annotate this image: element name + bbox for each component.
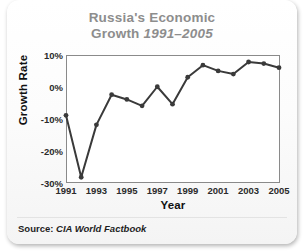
growth-rate-line-series [66,55,280,183]
data-point-marker [216,68,221,73]
x-axis-tick-label: 2005 [268,185,289,196]
chart-title-growth-word: Growth [91,26,139,41]
x-axis-tick-label: 1991 [55,185,76,196]
chart-title-line-2: Growth 1991–2005 [7,26,297,42]
data-point-marker [94,122,99,127]
data-point-marker [261,61,266,66]
data-point-marker [231,72,236,77]
data-point-marker [246,60,251,65]
chart-card: Russia's Economic Growth 1991–2005 Growt… [7,0,297,244]
x-axis-tick-label: 1995 [116,185,137,196]
chart-title-line-1: Russia's Economic [7,10,297,26]
x-axis-tick-label: 1997 [147,185,168,196]
plot-area [66,55,280,183]
data-point-marker [155,84,160,89]
y-axis-tick-label: -10% [29,114,63,125]
data-point-marker [201,63,206,68]
source-label: Source: [18,223,53,234]
y-axis-tick-label: -20% [29,146,63,157]
y-axis-tick-label: 0% [29,82,63,93]
source-note: Source: CIA World Factbook [18,223,146,234]
series-line [66,62,279,177]
screenshot-root: Russia's Economic Growth 1991–2005 Growt… [0,0,306,251]
x-axis-tick-label: 2003 [238,185,259,196]
chart-title-year-range: 1991–2005 [144,26,213,41]
data-point-marker [124,97,129,102]
x-axis-tick-label: 2001 [208,185,229,196]
x-axis-ticks: 19911993199519971999200120032005 [66,185,280,199]
source-value: CIA World Factbook [56,223,146,234]
data-point-marker [140,103,145,108]
chart-title: Russia's Economic Growth 1991–2005 [7,10,297,41]
data-point-marker [64,113,69,118]
data-point-marker [277,65,282,70]
x-axis-label: Year [66,199,280,211]
y-axis-ticks: 10% 0% -10% -20% -30% [25,55,63,183]
data-point-marker [79,175,84,180]
data-point-marker [170,102,175,107]
data-point-marker [185,75,190,80]
data-point-marker [109,92,114,97]
y-axis-tick-label: 10% [29,50,63,61]
x-axis-tick-label: 1993 [86,185,107,196]
x-axis-tick-label: 1999 [177,185,198,196]
source-divider [17,217,287,218]
